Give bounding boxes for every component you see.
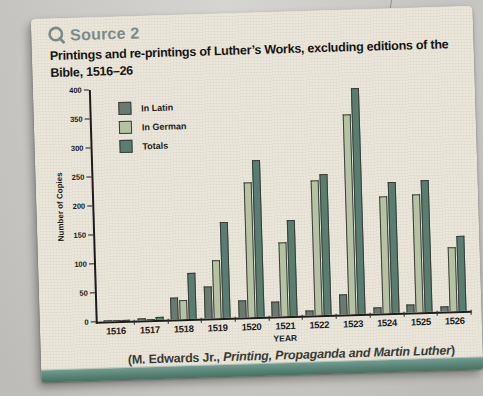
bar-in-latin-1519 xyxy=(204,286,213,318)
y-tick-400: 400 xyxy=(69,85,89,95)
legend-label-german: In German xyxy=(142,121,187,132)
magnifier-icon xyxy=(47,26,67,46)
source-card: Source 2 Printings and re-printings of L… xyxy=(31,6,483,383)
y-tick-label: 150 xyxy=(73,231,86,240)
y-axis-title: Number of Copies xyxy=(55,172,66,241)
y-tick-200: 200 xyxy=(73,201,93,211)
chart-legend: In Latin In German Totals xyxy=(118,100,187,159)
bar-group-1524 xyxy=(369,182,399,314)
y-tick-label: 50 xyxy=(79,289,88,298)
bar-in-latin-1523 xyxy=(339,294,348,314)
y-tick-100: 100 xyxy=(74,259,94,269)
bar-group-1518 xyxy=(170,273,197,320)
bar-in-latin-1520 xyxy=(238,300,247,317)
bar-in-german-1516 xyxy=(113,320,121,321)
legend-swatch-latin xyxy=(118,102,131,115)
bar-in-latin-1516 xyxy=(104,320,112,321)
x-tick-label-1525: 1525 xyxy=(408,316,434,328)
bar-totals-1526 xyxy=(456,236,466,311)
bar-in-german-1519 xyxy=(212,260,222,318)
bar-in-latin-1524 xyxy=(373,307,381,313)
bar-in-latin-1526 xyxy=(440,306,448,311)
bar-in-latin-1517 xyxy=(137,318,145,320)
x-tick-label-1520: 1520 xyxy=(238,321,264,333)
bar-in-german-1517 xyxy=(146,319,154,320)
y-tick-label: 200 xyxy=(73,202,86,211)
x-tick-label-1522: 1522 xyxy=(306,319,332,331)
x-tick-label-1521: 1521 xyxy=(272,320,298,332)
x-tick-label-1518: 1518 xyxy=(171,323,197,335)
bar-group-1526 xyxy=(438,236,466,312)
citation-suffix: ) xyxy=(451,343,455,357)
bar-group-1522 xyxy=(302,174,332,316)
x-tick-label-1524: 1524 xyxy=(374,317,400,329)
legend-item-latin: In Latin xyxy=(118,100,186,115)
y-tick-150: 150 xyxy=(73,230,93,240)
legend-swatch-german xyxy=(119,121,132,134)
plot-area: In Latin In German Totals xyxy=(89,79,472,324)
bar-group-1519 xyxy=(202,222,231,319)
y-tick-label: 300 xyxy=(71,144,84,153)
legend-label-totals: Totals xyxy=(142,140,168,151)
bar-in-latin-1522 xyxy=(306,310,314,315)
source-label: Source 2 xyxy=(70,24,140,44)
y-tick-label: 350 xyxy=(70,115,83,124)
y-tick-250: 250 xyxy=(72,172,92,182)
y-tick-300: 300 xyxy=(71,143,91,153)
bar-totals-1518 xyxy=(188,273,197,319)
legend-label-latin: In Latin xyxy=(141,102,173,113)
y-tick-50: 50 xyxy=(79,288,95,297)
bar-group-1523 xyxy=(333,88,366,315)
bar-in-latin-1525 xyxy=(407,304,415,312)
bar-group-1517 xyxy=(137,317,163,321)
bar-group-1521 xyxy=(269,220,298,317)
y-tick-label: 250 xyxy=(72,173,85,182)
legend-item-totals: Totals xyxy=(119,138,187,153)
x-tick-label-1523: 1523 xyxy=(340,318,366,330)
bar-group-1520 xyxy=(234,160,265,318)
y-tick-350: 350 xyxy=(70,114,90,124)
bar-totals-1519 xyxy=(220,222,231,318)
legend-swatch-totals xyxy=(119,140,132,153)
bar-in-german-1518 xyxy=(179,300,188,319)
x-tick-label-1526: 1526 xyxy=(442,315,468,327)
x-tick-label-1517: 1517 xyxy=(137,324,163,336)
y-tick-label: 0 xyxy=(84,318,88,327)
y-tick-0: 0 xyxy=(84,317,95,326)
bar-chart: Number of Copies 05010015020025030035040… xyxy=(51,79,472,325)
bar-totals-1517 xyxy=(155,317,163,320)
bar-in-latin-1521 xyxy=(272,301,280,316)
bar-totals-1516 xyxy=(122,320,130,321)
y-tick-label: 100 xyxy=(74,260,87,269)
bar-totals-1521 xyxy=(287,220,298,316)
y-tick-label: 400 xyxy=(69,86,82,95)
x-tick-label-1516: 1516 xyxy=(103,325,129,337)
bar-group-1516 xyxy=(104,320,130,322)
bar-in-latin-1518 xyxy=(170,297,179,319)
citation-prefix: (M. Edwards Jr., xyxy=(128,350,224,367)
x-tick-label-1519: 1519 xyxy=(204,322,230,334)
bar-group-1525 xyxy=(403,180,433,313)
legend-item-german: In German xyxy=(119,119,187,134)
